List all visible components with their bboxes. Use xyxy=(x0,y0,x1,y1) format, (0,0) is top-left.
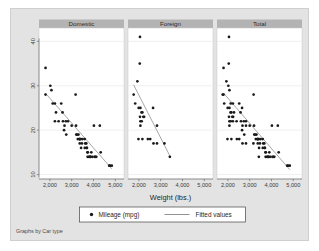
data-point xyxy=(288,164,291,167)
data-point xyxy=(60,102,63,105)
data-point xyxy=(67,120,70,123)
data-point xyxy=(132,93,135,96)
panel-foreign: Foreign2,0003,0004,0005,000 xyxy=(128,20,213,189)
data-point xyxy=(138,62,141,65)
data-point xyxy=(74,93,77,96)
xtick-label: 4,000 xyxy=(175,182,189,188)
data-point xyxy=(81,142,84,145)
graph-note: Graphs by Car type xyxy=(16,228,63,234)
data-point xyxy=(245,120,248,123)
data-point xyxy=(228,89,231,92)
xtick-label: 4,000 xyxy=(264,182,278,188)
data-point xyxy=(137,138,140,141)
data-point xyxy=(268,151,271,154)
data-point xyxy=(226,138,229,141)
data-point xyxy=(230,111,233,114)
ytick-label: 10 xyxy=(30,171,36,177)
xtick-label: 4,000 xyxy=(86,182,100,188)
xtick-label: 3,000 xyxy=(65,182,79,188)
data-point xyxy=(232,102,235,105)
data-point xyxy=(141,138,144,141)
data-point xyxy=(50,89,53,92)
data-point xyxy=(77,133,80,136)
data-point xyxy=(252,142,255,145)
data-point xyxy=(232,115,235,118)
xtick-label: 2,000 xyxy=(132,182,146,188)
data-point xyxy=(241,107,244,110)
data-point xyxy=(228,115,231,118)
data-point xyxy=(238,138,241,141)
data-point xyxy=(261,138,264,141)
data-point xyxy=(149,138,152,141)
data-point xyxy=(141,111,144,114)
xtick-label: 5,000 xyxy=(108,182,122,188)
data-point xyxy=(245,124,248,127)
data-point xyxy=(139,36,142,39)
data-point xyxy=(143,115,146,118)
data-point xyxy=(95,155,98,158)
data-point xyxy=(245,142,248,145)
data-point xyxy=(44,93,47,96)
data-point xyxy=(75,124,78,127)
data-point xyxy=(156,124,159,127)
data-point xyxy=(86,147,89,150)
data-point xyxy=(54,102,57,105)
xtick-label: 2,000 xyxy=(221,182,235,188)
graph-canvas: Domestic2,0003,0004,0005,000Foreign2,000… xyxy=(10,8,309,241)
data-point xyxy=(264,151,267,154)
data-point xyxy=(63,124,66,127)
panel-domestic: Domestic2,0003,0004,0005,000 xyxy=(39,20,124,189)
data-point xyxy=(258,147,261,150)
ytick-label: 20 xyxy=(30,127,36,133)
data-point xyxy=(235,138,238,141)
data-point xyxy=(156,142,159,145)
data-point xyxy=(222,93,225,96)
data-point xyxy=(228,36,231,39)
data-point xyxy=(243,133,246,136)
plot-area: Domestic2,0003,0004,0005,000Foreign2,000… xyxy=(11,9,310,242)
data-point xyxy=(264,147,267,150)
data-point xyxy=(85,142,88,145)
data-point xyxy=(223,102,226,105)
xtick-label: 3,000 xyxy=(154,182,168,188)
data-point xyxy=(57,120,60,123)
ytick-label: 40 xyxy=(30,38,36,44)
y-axis: 10203040 xyxy=(30,38,40,177)
data-point xyxy=(273,155,276,158)
data-point xyxy=(277,151,280,154)
data-point xyxy=(140,120,143,123)
data-point xyxy=(134,102,137,105)
data-point xyxy=(152,107,155,110)
xtick-label: 2,000 xyxy=(43,182,57,188)
data-point xyxy=(152,142,155,145)
data-point xyxy=(257,155,260,158)
data-point xyxy=(90,151,93,154)
scatter-chart: Domestic2,0003,0004,0005,000Foreign2,000… xyxy=(11,9,310,242)
data-point xyxy=(232,120,235,123)
ytick-label: 30 xyxy=(30,83,36,89)
data-point xyxy=(239,111,242,114)
panel-title-foreign: Foreign xyxy=(160,20,182,27)
data-point xyxy=(259,142,262,145)
x-axis-title: Weight (lbs.) xyxy=(150,193,191,202)
data-point xyxy=(241,124,244,127)
data-point xyxy=(255,133,258,136)
data-point xyxy=(49,84,52,87)
data-point xyxy=(253,124,256,127)
panel-title-total: Total xyxy=(253,20,266,27)
legend-marker-icon xyxy=(90,213,93,216)
data-point xyxy=(110,164,113,167)
data-point xyxy=(139,124,142,127)
panel-total: Total2,0003,0004,0005,000 xyxy=(217,20,302,189)
xtick-label: 5,000 xyxy=(286,182,300,188)
data-point xyxy=(70,124,73,127)
data-point xyxy=(241,129,244,132)
data-point xyxy=(227,62,230,65)
data-point xyxy=(241,142,244,145)
data-point xyxy=(83,138,86,141)
data-point xyxy=(61,111,64,114)
data-point xyxy=(93,124,96,127)
data-point xyxy=(65,133,68,136)
data-point xyxy=(62,120,65,123)
data-point xyxy=(225,80,228,83)
